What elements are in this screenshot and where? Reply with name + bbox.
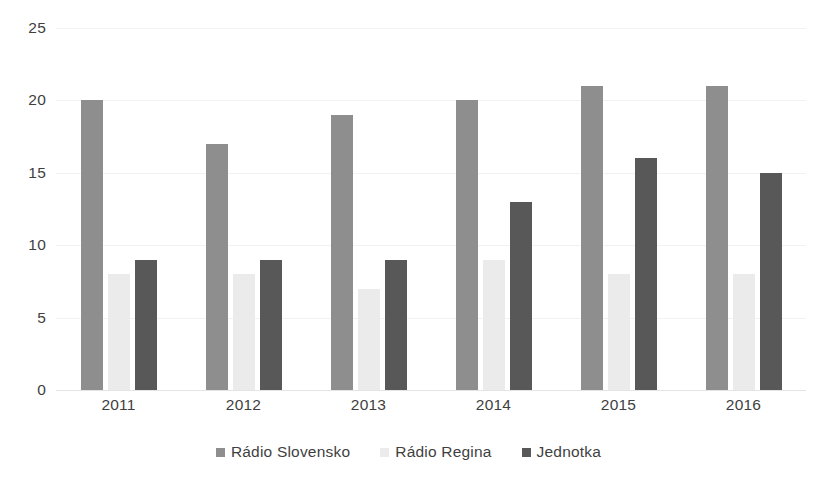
- legend-label: Rádio Slovensko: [231, 443, 350, 461]
- bar-jednotka: [760, 173, 782, 390]
- bar-group: [306, 28, 431, 390]
- bar-group-bars: [181, 28, 306, 390]
- y-tick-label: 15: [0, 165, 46, 181]
- legend-label: Jednotka: [537, 443, 602, 461]
- bar-radio-regina: [108, 274, 130, 390]
- legend-item-radio-slovensko: Rádio Slovensko: [216, 443, 350, 461]
- bar-radio-slovensko: [331, 115, 353, 390]
- y-tick-label: 5: [0, 310, 46, 326]
- legend-swatch-icon: [216, 448, 225, 457]
- x-tick-label-2016: 2016: [681, 396, 806, 414]
- legend-swatch-icon: [380, 448, 389, 457]
- legend-swatch-icon: [522, 448, 531, 457]
- x-tick-label-2011: 2011: [56, 396, 181, 414]
- bar-radio-slovensko: [706, 86, 728, 390]
- bar-radio-slovensko: [206, 144, 228, 390]
- bar-group-bars: [556, 28, 681, 390]
- gridline-0-baseline: [56, 390, 806, 391]
- y-axis: 25 20 15 10 5 0: [0, 0, 46, 480]
- x-tick-label-2012: 2012: [181, 396, 306, 414]
- bar-radio-regina: [358, 289, 380, 390]
- legend-label: Rádio Regina: [395, 443, 491, 461]
- y-tick-label: 0: [0, 382, 46, 398]
- bar-radio-regina: [608, 274, 630, 390]
- bar-radio-slovensko: [456, 100, 478, 390]
- bar-radio-slovensko: [581, 86, 603, 390]
- bar-radio-slovensko: [81, 100, 103, 390]
- x-tick-label-2015: 2015: [556, 396, 681, 414]
- y-tick-label: 10: [0, 237, 46, 253]
- bar-group-bars: [431, 28, 556, 390]
- bar-jednotka: [635, 158, 657, 390]
- bar-group-bars: [306, 28, 431, 390]
- bar-group: [556, 28, 681, 390]
- bar-group-bars: [56, 28, 181, 390]
- chart-legend: Rádio Slovensko Rádio Regina Jednotka: [0, 443, 817, 461]
- bar-group: [431, 28, 556, 390]
- y-tick-label: 25: [0, 20, 46, 36]
- bar-radio-regina: [733, 274, 755, 390]
- bar-group-bars: [681, 28, 806, 390]
- bar-radio-regina: [233, 274, 255, 390]
- bar-radio-regina: [483, 260, 505, 390]
- bar-groups: [56, 28, 806, 390]
- bar-jednotka: [510, 202, 532, 390]
- bar-group: [56, 28, 181, 390]
- x-axis: 2011 2012 2013 2014 2015 2016: [56, 396, 806, 414]
- bar-chart: 25 20 15 10 5 0: [0, 0, 817, 480]
- legend-item-radio-regina: Rádio Regina: [380, 443, 491, 461]
- bar-group: [181, 28, 306, 390]
- bar-group: [681, 28, 806, 390]
- bar-jednotka: [135, 260, 157, 390]
- bar-jednotka: [260, 260, 282, 390]
- x-tick-label-2013: 2013: [306, 396, 431, 414]
- y-tick-label: 20: [0, 93, 46, 109]
- legend-item-jednotka: Jednotka: [522, 443, 602, 461]
- bar-jednotka: [385, 260, 407, 390]
- x-tick-label-2014: 2014: [431, 396, 556, 414]
